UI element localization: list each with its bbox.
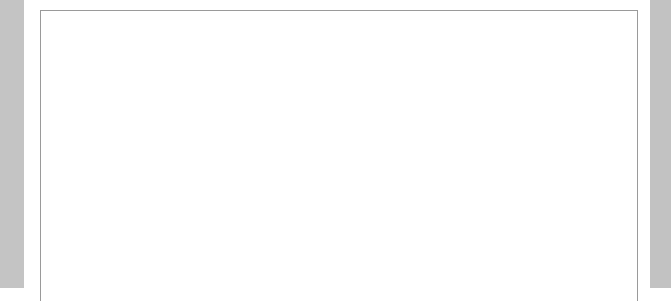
activity-grid: [0, 0, 671, 288]
